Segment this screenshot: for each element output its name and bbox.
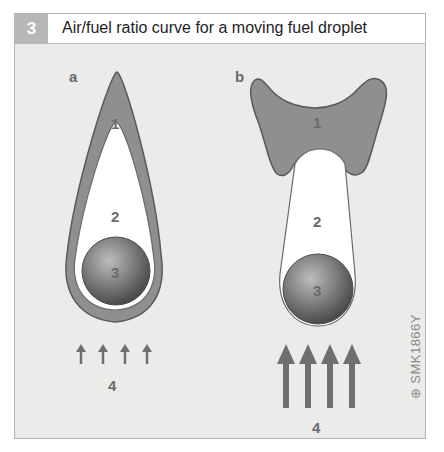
panel-a: a 1 2 3 4 (66, 68, 162, 394)
panel-b-zone-2-label: 2 (313, 213, 321, 230)
panel-a-zone-3-label: 3 (111, 264, 119, 281)
panel-a-flow-label: 4 (108, 377, 117, 394)
panel-b-flow-label: 4 (312, 419, 321, 436)
diagram-canvas: a 1 2 3 4 b (15, 44, 425, 438)
panel-b-label: b (235, 68, 244, 85)
panel-b-zone-1-label: 1 (313, 114, 321, 131)
figure-number-badge: 3 (15, 14, 48, 43)
figure-frame: 3 Air/fuel ratio curve for a moving fuel… (14, 13, 426, 439)
figure-title: Air/fuel ratio curve for a moving fuel d… (62, 19, 367, 37)
figure-header: 3 Air/fuel ratio curve for a moving fuel… (15, 14, 425, 44)
panel-a-zone-1-label: 1 (111, 115, 119, 132)
figure-code: ⊕ SMK1866Y (408, 314, 423, 399)
panel-a-label: a (69, 68, 78, 85)
panel-b: b 1 2 3 4 (235, 68, 387, 436)
panel-b-zone-3-label: 3 (313, 282, 321, 299)
panel-a-zone-2-label: 2 (111, 208, 119, 225)
panel-b-flow-arrows (277, 344, 361, 408)
panel-a-flow-arrows (76, 344, 152, 364)
